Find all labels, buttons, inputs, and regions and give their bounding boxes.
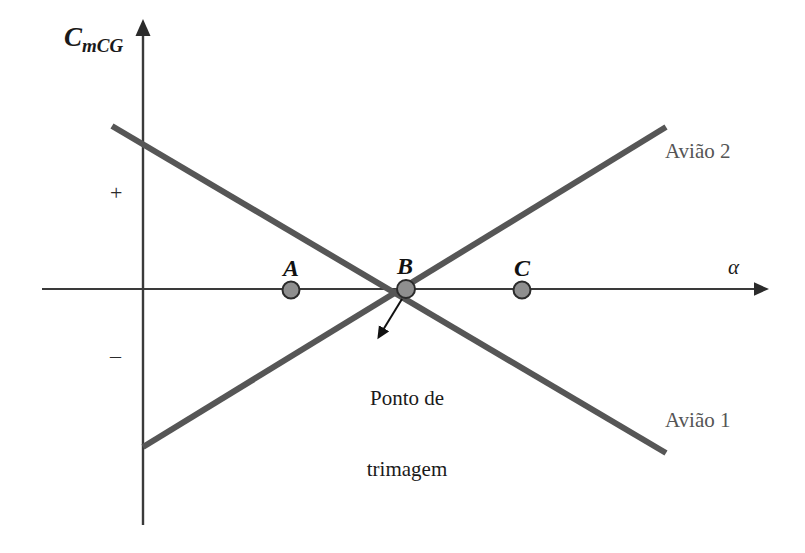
y-axis-label: CmCG xyxy=(64,22,123,56)
y-axis-label-subscript: mCG xyxy=(82,35,123,56)
data-point-label-c: C xyxy=(514,255,530,282)
y-axis-label-base: C xyxy=(64,22,82,52)
annotation-arrow xyxy=(383,299,402,330)
series-label-aviao-2: Avião 2 xyxy=(665,140,731,164)
data-point-label-a: A xyxy=(283,255,299,282)
series-label-aviao-1: Avião 1 xyxy=(665,409,731,433)
data-point-b[interactable] xyxy=(397,280,415,298)
trim-point-annotation-line2: trimagem xyxy=(327,458,487,482)
data-point-label-b: B xyxy=(397,253,413,280)
data-point-c[interactable] xyxy=(514,282,531,299)
cmcg-alpha-diagram: CmCG α + – A B C Ponto de trimagem Avião… xyxy=(0,0,805,553)
data-point-a[interactable] xyxy=(283,282,300,299)
x-axis-label: α xyxy=(728,256,739,280)
negative-axis-tick: – xyxy=(110,344,121,369)
positive-axis-tick: + xyxy=(110,181,122,206)
trim-point-annotation-line1: Ponto de xyxy=(327,387,487,411)
trim-point-annotation: Ponto de trimagem xyxy=(327,340,487,528)
